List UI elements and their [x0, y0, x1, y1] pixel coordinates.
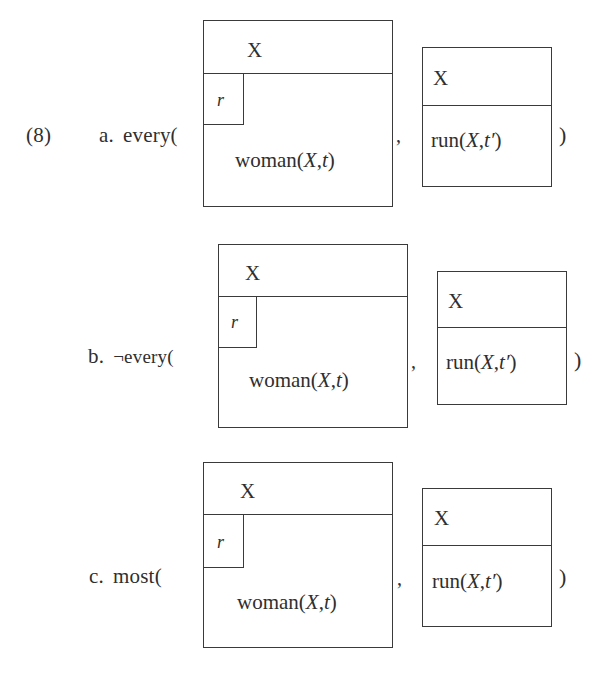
- item-c-quantifier: most(: [113, 564, 162, 588]
- item-a-restrictor-box: X r woman(X,t): [203, 20, 393, 207]
- item-a-role-variable: r: [217, 91, 224, 109]
- item-b-scope-condition: run(X,t′): [446, 352, 517, 373]
- item-c-scope-referents: X: [434, 508, 449, 529]
- item-a-quantifier: every(: [123, 123, 178, 147]
- item-c-restrictor-box: X r woman(X,t): [203, 462, 393, 648]
- item-c-restrictor-condition: woman(X,t): [237, 592, 337, 613]
- item-b-role-variable: r: [231, 313, 238, 331]
- item-b-restrictor-box: X r woman(X,t): [218, 244, 408, 428]
- item-b-scope-referents: X: [448, 291, 463, 312]
- item-b-restrictor-referents: X: [245, 263, 260, 284]
- item-a-closing-paren: ): [559, 124, 566, 146]
- item-b-label: b.¬every(: [88, 346, 174, 367]
- item-c-label: c.most(: [89, 566, 162, 587]
- item-c-separator: ,: [397, 568, 402, 588]
- item-a-scope-referents: X: [433, 68, 448, 89]
- item-c-scope-divider: [423, 545, 551, 546]
- item-c-closing-paren: ): [559, 566, 566, 588]
- item-a-scope-box: X run(X,t′): [422, 47, 552, 187]
- example-number: (8): [26, 125, 51, 146]
- item-a-letter: a.: [99, 123, 114, 147]
- item-a-separator: ,: [396, 125, 401, 145]
- item-c-letter: c.: [89, 564, 104, 588]
- item-b-separator: ,: [411, 351, 416, 371]
- item-c-scope-box: X run(X,t′): [422, 488, 552, 627]
- figure-page: { "figure": { "example_number": "(8)", "…: [0, 0, 614, 678]
- item-b-quantifier: ¬every(: [113, 346, 174, 367]
- item-a-scope-condition: run(X,t′): [431, 130, 502, 151]
- item-a-label: a.every(: [99, 125, 178, 146]
- item-b-closing-paren: ): [574, 349, 581, 371]
- item-a-scope-divider: [423, 105, 551, 106]
- item-b-scope-box: X run(X,t′): [437, 271, 567, 405]
- item-b-restrictor-condition: woman(X,t): [249, 370, 349, 391]
- item-a-restrictor-condition: woman(X,t): [235, 150, 335, 171]
- item-b-scope-divider: [438, 327, 566, 328]
- item-c-restrictor-referents: X: [240, 481, 255, 502]
- item-a-restrictor-referents: X: [247, 40, 262, 61]
- item-b-letter: b.: [88, 344, 104, 368]
- item-c-scope-condition: run(X,t′): [432, 571, 503, 592]
- item-c-role-variable: r: [217, 533, 224, 551]
